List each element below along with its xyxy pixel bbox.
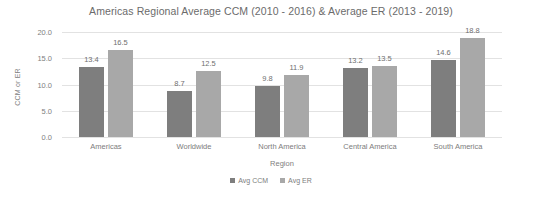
bar[interactable]: 13.4	[79, 67, 104, 137]
x-axis-title: Region	[62, 159, 502, 168]
bar[interactable]: 16.5	[108, 50, 133, 137]
bar-group: 13.416.5Americas	[62, 32, 150, 137]
y-axis-tick-label: 15.0	[37, 54, 52, 63]
bar[interactable]: 8.7	[167, 91, 192, 137]
chart-container: Americas Regional Average CCM (2010 - 20…	[0, 0, 542, 205]
bars: 13.416.5	[62, 32, 150, 137]
legend-label: Avg ER	[288, 177, 312, 184]
legend-swatch-icon	[280, 178, 285, 183]
bar-value-label: 8.7	[174, 79, 184, 88]
bar-value-label: 13.5	[377, 54, 392, 63]
y-axis-tick-labels: 0.05.010.015.020.0	[0, 32, 56, 137]
plot-area: 13.416.5Americas8.712.5Worldwide9.811.9N…	[62, 32, 502, 137]
bars: 14.618.8	[414, 32, 502, 137]
bar-value-label: 11.9	[289, 63, 303, 72]
bar[interactable]: 9.8	[255, 86, 280, 137]
bar-group: 13.213.5Central America	[326, 32, 414, 137]
bar-value-label: 18.8	[465, 26, 480, 35]
bar[interactable]: 18.8	[460, 38, 485, 137]
legend-item[interactable]: Avg ER	[280, 177, 312, 184]
gridline	[62, 137, 502, 138]
bars: 9.811.9	[238, 32, 326, 137]
legend-swatch-icon	[230, 178, 235, 183]
category-label: North America	[238, 142, 326, 151]
y-axis-tick-label: 0.0	[42, 133, 52, 142]
bar-value-label: 13.2	[348, 56, 363, 65]
bar-group: 8.712.5Worldwide	[150, 32, 238, 137]
chart-legend: Avg CCMAvg ER	[0, 177, 542, 184]
category-label: Central America	[326, 142, 414, 151]
y-axis-tick-label: 5.0	[42, 106, 52, 115]
bar[interactable]: 14.6	[431, 60, 456, 137]
bar-value-label: 9.8	[262, 74, 272, 83]
y-axis-tick-label: 10.0	[37, 80, 52, 89]
bar-group: 14.618.8South America	[414, 32, 502, 137]
category-label: South America	[414, 142, 502, 151]
chart-title: Americas Regional Average CCM (2010 - 20…	[0, 5, 542, 17]
bar[interactable]: 13.5	[372, 66, 397, 137]
bars: 13.213.5	[326, 32, 414, 137]
category-label: Worldwide	[150, 142, 238, 151]
category-label: Americas	[62, 142, 150, 151]
bar-value-label: 12.5	[201, 59, 216, 68]
bar-value-label: 13.4	[84, 55, 99, 64]
bar[interactable]: 13.2	[343, 68, 368, 137]
y-axis-tick-label: 20.0	[37, 28, 52, 37]
bar[interactable]: 11.9	[284, 75, 309, 137]
bar-value-label: 14.6	[436, 48, 451, 57]
bar-group: 9.811.9North America	[238, 32, 326, 137]
bar-value-label: 16.5	[113, 38, 128, 47]
bar[interactable]: 12.5	[196, 71, 221, 137]
legend-item[interactable]: Avg CCM	[230, 177, 268, 184]
legend-label: Avg CCM	[238, 177, 268, 184]
bars: 8.712.5	[150, 32, 238, 137]
